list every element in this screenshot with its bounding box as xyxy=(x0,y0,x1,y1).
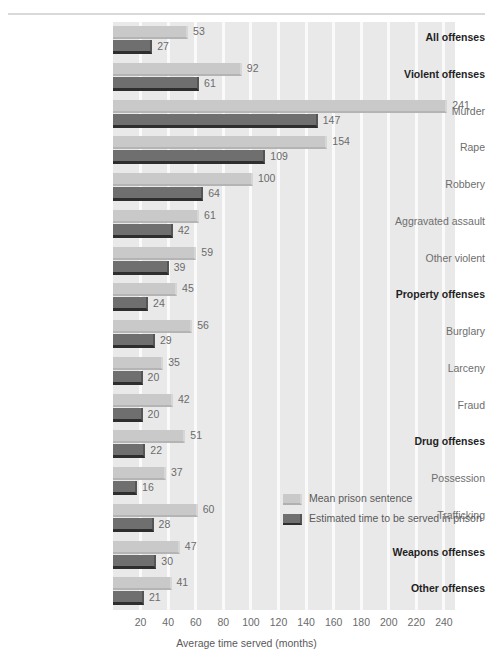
bar-chart: All offenses5327Violent offenses9261Murd… xyxy=(0,0,493,659)
bar-estimated-time-served xyxy=(113,187,203,201)
bar-value-served: 20 xyxy=(148,409,160,420)
x-tick-label: 140 xyxy=(297,616,315,628)
chart-row: Robbery10064 xyxy=(0,169,493,203)
bar-value-mean: 47 xyxy=(185,541,197,552)
x-tick-label: 120 xyxy=(270,616,288,628)
legend-label-estimated-time-served: Estimated time to be served in prison xyxy=(309,512,482,525)
bar-group: 6142 xyxy=(113,206,455,240)
bar-value-served: 42 xyxy=(178,225,190,236)
bar-mean-prison-sentence xyxy=(113,26,188,39)
bar-value-mean: 61 xyxy=(204,210,216,221)
bar-value-served: 61 xyxy=(204,78,216,89)
legend-label-mean-prison-sentence: Mean prison sentence xyxy=(309,492,412,505)
bar-value-mean: 56 xyxy=(197,320,209,331)
bar-value-mean: 60 xyxy=(203,504,215,515)
bar-value-mean: 241 xyxy=(452,100,470,111)
bar-value-served: 24 xyxy=(153,298,165,309)
bar-estimated-time-served xyxy=(113,371,143,385)
bar-value-served: 109 xyxy=(270,151,288,162)
bar-group: 5939 xyxy=(113,243,455,277)
x-tick-label: 160 xyxy=(325,616,343,628)
chart-row: Weapons offenses4730 xyxy=(0,537,493,571)
bar-mean-prison-sentence xyxy=(113,467,166,480)
bar-group: 4121 xyxy=(113,573,455,607)
bar-value-mean: 42 xyxy=(178,394,190,405)
chart-row: Other offenses4121 xyxy=(0,573,493,607)
bar-mean-prison-sentence xyxy=(113,357,163,370)
chart-row: Drug offenses5122 xyxy=(0,426,493,460)
bar-group: 5122 xyxy=(113,426,455,460)
bar-value-mean: 100 xyxy=(258,173,276,184)
bar-mean-prison-sentence xyxy=(113,173,253,186)
x-tick-label: 60 xyxy=(190,616,202,628)
bar-group: 154109 xyxy=(113,132,455,166)
chart-row: Larceny3520 xyxy=(0,353,493,387)
bar-value-mean: 51 xyxy=(190,430,202,441)
bar-value-mean: 92 xyxy=(247,63,259,74)
bar-estimated-time-served xyxy=(113,297,148,311)
bar-mean-prison-sentence xyxy=(113,504,198,517)
chart-row: Aggravated assault6142 xyxy=(0,206,493,240)
bar-estimated-time-served xyxy=(113,555,156,569)
bar-mean-prison-sentence xyxy=(113,577,172,590)
chart-row: Other violent5939 xyxy=(0,243,493,277)
bar-value-mean: 45 xyxy=(182,283,194,294)
bar-group: 5327 xyxy=(113,22,455,56)
bar-value-mean: 37 xyxy=(171,467,183,478)
bar-estimated-time-served xyxy=(113,77,199,91)
bar-group: 10064 xyxy=(113,169,455,203)
chart-row: Rape154109 xyxy=(0,132,493,166)
bar-group: 241147 xyxy=(113,96,455,130)
legend-swatch-light xyxy=(283,494,302,505)
bar-mean-prison-sentence xyxy=(113,541,180,554)
x-tick-label: 240 xyxy=(435,616,453,628)
bar-mean-prison-sentence xyxy=(113,63,242,76)
bar-group: 4524 xyxy=(113,279,455,313)
bar-value-served: 39 xyxy=(174,262,186,273)
top-divider xyxy=(8,13,485,15)
bar-estimated-time-served xyxy=(113,444,145,458)
bar-group: 5629 xyxy=(113,316,455,350)
bar-value-mean: 154 xyxy=(332,136,350,147)
bar-value-served: 21 xyxy=(149,592,161,603)
bar-estimated-time-served xyxy=(113,40,152,54)
bar-group: 4730 xyxy=(113,537,455,571)
bar-value-mean: 53 xyxy=(193,26,205,37)
x-tick-label: 20 xyxy=(135,616,147,628)
chart-row: All offenses5327 xyxy=(0,22,493,56)
chart-row: Property offenses4524 xyxy=(0,279,493,313)
x-tick-label: 100 xyxy=(242,616,260,628)
bar-value-served: 30 xyxy=(161,556,173,567)
bar-estimated-time-served xyxy=(113,591,144,605)
x-tick-label: 40 xyxy=(162,616,174,628)
chart-row: Murder241147 xyxy=(0,96,493,130)
chart-row: Possession3716 xyxy=(0,463,493,497)
bar-mean-prison-sentence xyxy=(113,394,173,407)
bar-value-served: 29 xyxy=(160,335,172,346)
bar-mean-prison-sentence xyxy=(113,247,196,260)
bar-value-served: 16 xyxy=(142,482,154,493)
bar-group: 3520 xyxy=(113,353,455,387)
bar-group: 9261 xyxy=(113,59,455,93)
bar-value-mean: 41 xyxy=(177,577,189,588)
bar-value-served: 22 xyxy=(150,445,162,456)
bar-estimated-time-served xyxy=(113,261,169,275)
bar-estimated-time-served xyxy=(113,114,318,128)
bar-estimated-time-served xyxy=(113,518,154,532)
bar-mean-prison-sentence xyxy=(113,320,192,333)
bar-estimated-time-served xyxy=(113,224,173,238)
bar-value-served: 27 xyxy=(157,41,169,52)
bar-value-mean: 59 xyxy=(201,247,213,258)
x-tick-label: 180 xyxy=(352,616,370,628)
bar-mean-prison-sentence xyxy=(113,136,327,149)
chart-row: Fraud4220 xyxy=(0,390,493,424)
bar-estimated-time-served xyxy=(113,408,143,422)
x-tick-label: 220 xyxy=(408,616,426,628)
bar-mean-prison-sentence xyxy=(113,100,447,113)
bar-value-served: 147 xyxy=(323,115,341,126)
bar-mean-prison-sentence xyxy=(113,430,185,443)
x-axis-title: Average time served (months) xyxy=(0,637,493,649)
bar-estimated-time-served xyxy=(113,481,137,495)
bar-value-served: 20 xyxy=(148,372,160,383)
bar-estimated-time-served xyxy=(113,150,265,164)
